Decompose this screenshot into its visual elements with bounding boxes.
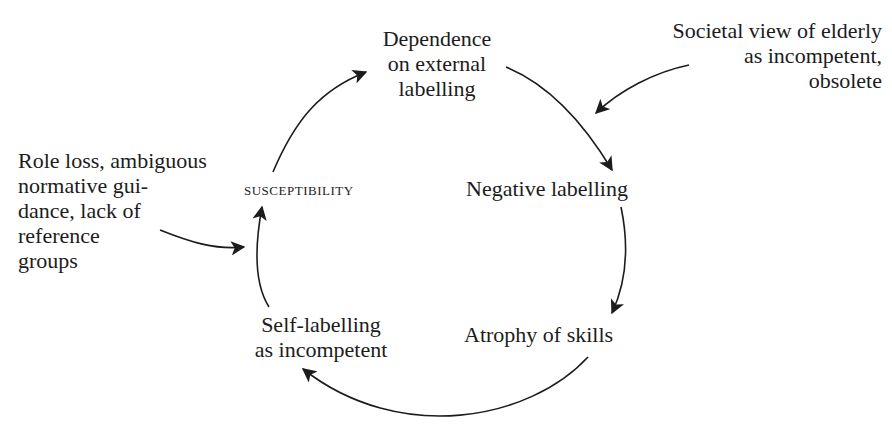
- arrow-self-to-susceptibility: [257, 207, 269, 307]
- input-line: groups: [18, 248, 248, 273]
- arrow-atrophy-to-self: [303, 357, 588, 416]
- input-line: reference: [18, 223, 248, 248]
- node-dependence-on-external-labelling: Dependence on external labelling: [362, 26, 512, 101]
- node-line: labelling: [362, 76, 512, 101]
- node-negative-labelling: Negative labelling: [466, 176, 628, 201]
- input-line: obsolete: [600, 68, 882, 93]
- node-self-labelling: Self-labelling as incompetent: [240, 312, 402, 362]
- input-line: normative gui-: [18, 173, 248, 198]
- input-line: as incompetent,: [600, 43, 882, 68]
- arrow-negative-to-atrophy: [612, 207, 626, 313]
- node-atrophy-of-skills: Atrophy of skills: [464, 322, 613, 347]
- input-role-loss: Role loss, ambiguous normative gui- danc…: [18, 148, 248, 273]
- node-susceptibility: susceptibility: [244, 176, 354, 201]
- arrow-susceptibility-to-dependence: [273, 72, 366, 172]
- node-line: on external: [362, 51, 512, 76]
- node-line: Self-labelling: [240, 312, 402, 337]
- arrow-dependence-to-negative: [506, 67, 612, 170]
- node-line: Dependence: [362, 26, 512, 51]
- node-label: Negative labelling: [466, 176, 628, 201]
- input-line: Societal view of elderly: [600, 18, 882, 43]
- node-label: susceptibility: [244, 178, 354, 199]
- input-line: Role loss, ambiguous: [18, 148, 248, 173]
- node-line: as incompetent: [240, 337, 402, 362]
- node-label: Atrophy of skills: [464, 322, 613, 347]
- input-societal-view: Societal view of elderly as incompetent,…: [600, 18, 882, 93]
- input-line: dance, lack of: [18, 198, 248, 223]
